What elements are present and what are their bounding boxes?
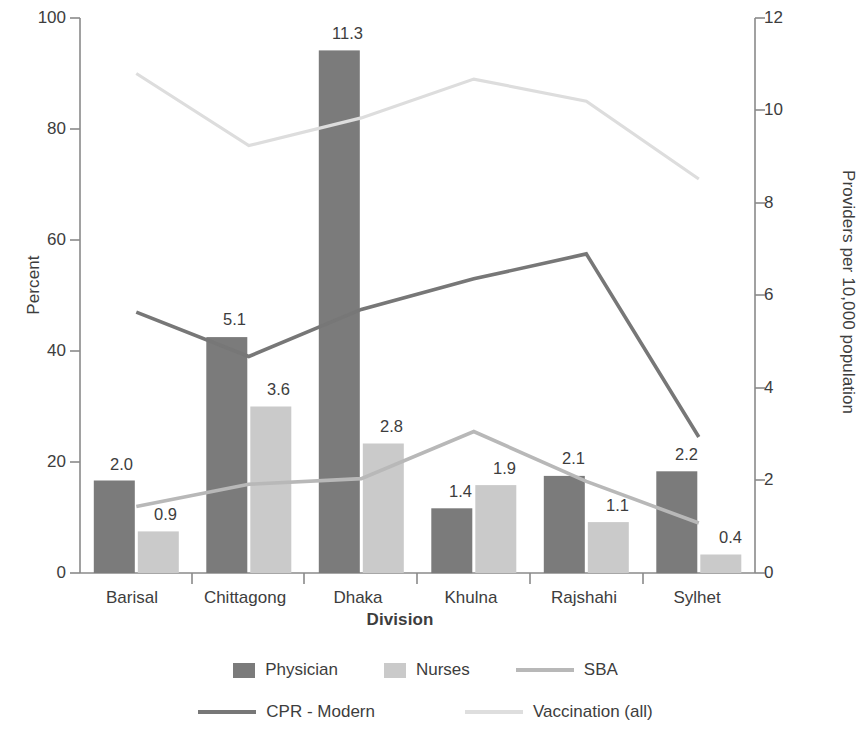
legend-label-sba: SBA <box>584 660 618 680</box>
bar-label-physician-chittagong: 5.1 <box>194 310 275 329</box>
y-axis-right-ticks <box>755 18 765 573</box>
legend-line-sba-icon <box>516 668 574 672</box>
chart-legend: Physician Nurses SBA CPR - Modern Vaccin… <box>0 652 851 722</box>
bar-label-nurses-chittagong: 3.6 <box>238 380 319 399</box>
legend-label-cpr-modern: CPR - Modern <box>266 702 375 722</box>
legend-swatch-nurses-icon <box>384 663 406 678</box>
bar-label-nurses-rajshahi: 1.1 <box>577 496 658 515</box>
legend-row-1: Physician Nurses SBA <box>0 660 851 680</box>
x-tick-label-chittagong: Chittagong <box>193 588 297 608</box>
x-tick-label-dhaka: Dhaka <box>306 588 410 608</box>
bar-label-physician-khulna: 1.4 <box>420 482 501 501</box>
x-tick-label-barisal: Barisal <box>80 588 184 608</box>
legend-line-vaccination-all-icon <box>465 710 523 714</box>
bar-label-physician-dhaka: 11.3 <box>307 24 388 43</box>
bar-label-physician-barisal: 2.0 <box>81 455 162 474</box>
y-axis-left-ticks <box>70 18 80 573</box>
bar-label-nurses-khulna: 1.9 <box>464 459 545 478</box>
bar-label-nurses-sylhet: 0.4 <box>690 528 771 547</box>
x-tick-label-rajshahi: Rajshahi <box>532 588 636 608</box>
legend-item-sba[interactable]: SBA <box>516 660 618 680</box>
legend-row-2: CPR - Modern Vaccination (all) <box>0 702 851 722</box>
bar-nurses-chittagong[interactable] <box>250 407 291 574</box>
bar-physician-chittagong[interactable] <box>206 337 247 573</box>
x-tick-label-khulna: Khulna <box>419 588 523 608</box>
legend-label-nurses: Nurses <box>416 660 470 680</box>
bar-nurses-barisal[interactable] <box>138 531 179 573</box>
legend-item-cpr-modern[interactable]: CPR - Modern <box>198 702 375 722</box>
line-vaccination-all[interactable] <box>136 74 699 180</box>
legend-item-physician[interactable]: Physician <box>233 660 338 680</box>
bar-label-nurses-dhaka: 2.8 <box>351 417 432 436</box>
bar-label-physician-sylhet: 2.2 <box>646 445 727 464</box>
bar-physician-sylhet[interactable] <box>656 471 697 573</box>
bar-physician-khulna[interactable] <box>431 508 472 573</box>
bar-label-nurses-barisal: 0.9 <box>125 505 206 524</box>
legend-swatch-physician-icon <box>233 663 255 678</box>
legend-label-physician: Physician <box>265 660 338 680</box>
legend-line-cpr-modern-icon <box>198 710 256 714</box>
x-axis-ticks <box>192 573 643 584</box>
bar-physician-barisal[interactable] <box>94 481 135 574</box>
legend-item-vaccination-all[interactable]: Vaccination (all) <box>465 702 653 722</box>
bar-nurses-sylhet[interactable] <box>700 555 741 574</box>
bar-label-physician-rajshahi: 2.1 <box>533 449 614 468</box>
legend-item-nurses[interactable]: Nurses <box>384 660 470 680</box>
bar-nurses-rajshahi[interactable] <box>588 522 629 573</box>
x-tick-label-sylhet: Sylhet <box>645 588 749 608</box>
bar-physician-rajshahi[interactable] <box>544 476 585 573</box>
legend-label-vaccination-all: Vaccination (all) <box>533 702 653 722</box>
